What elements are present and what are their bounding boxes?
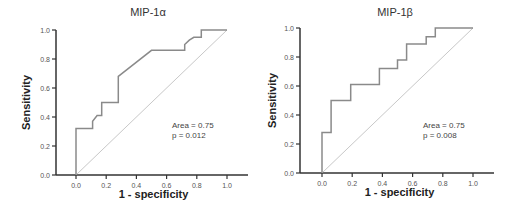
x-tick-label: 0.2 (347, 180, 357, 187)
y-tick-label: 0.8 (284, 54, 294, 61)
chart-title: MIP-1β (377, 6, 413, 18)
y-tick-label: 0.2 (284, 141, 294, 148)
x-tick-label: 0.0 (317, 180, 327, 187)
y-axis-label: Sensitivity (20, 74, 32, 130)
right-roc-chart: MIP-1β0.00.20.40.60.81.00.00.20.40.60.81… (266, 6, 494, 198)
y-axis-label: Sensitivity (266, 72, 278, 128)
y-tick-label: 0.8 (40, 56, 50, 63)
y-tick-label: 0.0 (284, 170, 294, 177)
p-value-annotation: p = 0.008 (423, 131, 457, 140)
reference-diagonal (76, 30, 227, 175)
left-roc-chart: MIP-1α0.00.20.40.60.81.00.00.20.40.60.81… (20, 6, 248, 200)
x-tick-label: 0.2 (101, 182, 111, 189)
x-tick-label: 0.0 (71, 182, 81, 189)
y-tick-label: 0.4 (284, 112, 294, 119)
area-annotation: Area = 0.75 (423, 121, 465, 130)
y-tick-label: 0.0 (40, 172, 50, 179)
p-value-annotation: p = 0.012 (172, 131, 206, 140)
chart-title: MIP-1α (130, 6, 166, 18)
x-tick-label: 0.8 (438, 180, 448, 187)
y-tick-label: 1.0 (284, 25, 294, 32)
y-tick-label: 0.4 (40, 114, 50, 121)
y-tick-label: 0.6 (40, 85, 50, 92)
roc-figure: MIP-1α0.00.20.40.60.81.00.00.20.40.60.81… (0, 0, 517, 215)
y-tick-label: 0.2 (40, 143, 50, 150)
x-tick-label: 1.0 (468, 180, 478, 187)
y-tick-label: 0.6 (284, 83, 294, 90)
x-axis-label: 1 - specificity (119, 188, 190, 200)
x-tick-label: 1.0 (222, 182, 232, 189)
y-tick-label: 1.0 (40, 27, 50, 34)
x-axis-label: 1 - specificity (365, 186, 436, 198)
area-annotation: Area = 0.75 (172, 121, 214, 130)
x-tick-label: 0.8 (192, 182, 202, 189)
